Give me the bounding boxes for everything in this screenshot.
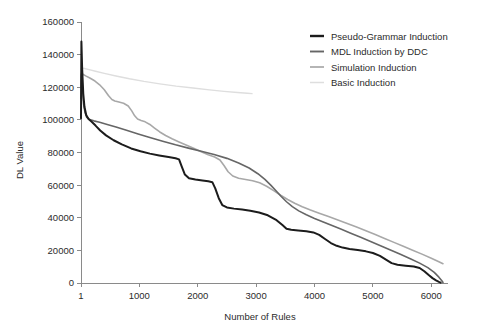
- y-tick-label: 40000: [48, 212, 74, 223]
- y-tick-label: 20000: [48, 245, 74, 256]
- x-tick-label: 4000: [304, 290, 325, 301]
- legend-label-1: Pseudo-Grammar Induction: [331, 31, 448, 42]
- y-axis-tick-labels: 0200004000060000800001000001200001400001…: [42, 16, 74, 288]
- x-tick-label: 6000: [421, 290, 442, 301]
- series-line-simulation-induction: [81, 73, 443, 263]
- x-axis-title: Number of Rules: [224, 311, 296, 322]
- legend-label-4: Basic Induction: [331, 77, 395, 88]
- y-tick-label: 0: [69, 277, 74, 288]
- x-tick-label: 5000: [362, 290, 383, 301]
- series-line-mdl-induction-by-ddc: [81, 74, 443, 282]
- y-tick-label: 160000: [42, 16, 74, 27]
- series-line-basic-induction: [81, 68, 252, 94]
- y-axis-title: DL Value: [14, 141, 25, 179]
- chart-figure: 0200004000060000800001000001200001400001…: [0, 0, 488, 328]
- x-tick-label: 1: [78, 290, 83, 301]
- y-tick-label: 60000: [48, 180, 74, 191]
- line-chart: 0200004000060000800001000001200001400001…: [0, 0, 488, 328]
- y-tick-label: 100000: [42, 114, 74, 125]
- y-tick-label: 140000: [42, 49, 74, 60]
- chart-legend: Pseudo-Grammar InductionMDL Induction by…: [310, 31, 448, 89]
- x-axis-tick-labels: 1100020003000400050006000: [78, 290, 442, 301]
- x-tick-label: 3000: [246, 290, 267, 301]
- x-tick-label: 2000: [187, 290, 208, 301]
- x-tick-label: 1000: [129, 290, 150, 301]
- y-tick-label: 80000: [48, 147, 74, 158]
- legend-label-3: Simulation Induction: [331, 62, 417, 73]
- legend-label-2: MDL Induction by DDC: [331, 46, 428, 57]
- y-tick-label: 120000: [42, 82, 74, 93]
